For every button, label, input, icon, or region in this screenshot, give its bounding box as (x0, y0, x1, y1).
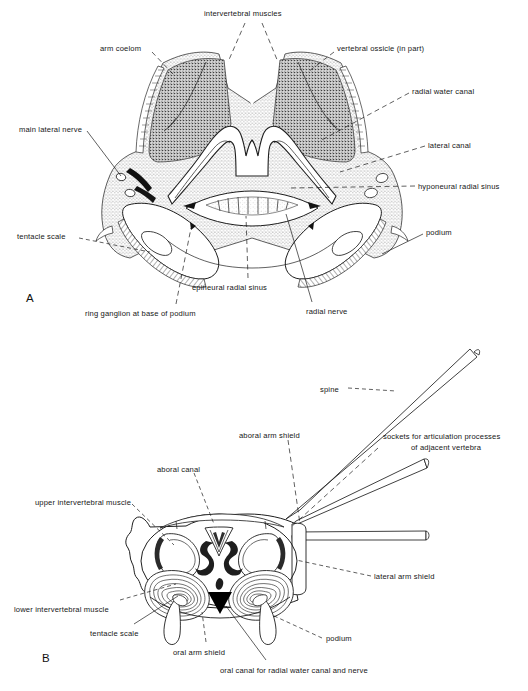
label-lower-intervertebral-muscle: lower intervertebral muscle (14, 605, 109, 615)
panel-a-artwork (79, 23, 425, 304)
anatomical-figure: intervertebral muscles arm coelom verteb… (0, 0, 528, 691)
panel-letter-b: B (42, 652, 50, 664)
label-oral-arm-shield: oral arm shield (173, 648, 225, 658)
label-aboral-canal: aboral canal (157, 465, 200, 475)
leader-aboral-arm-shield (288, 440, 300, 524)
label-intervertebral-muscles: intervertebral muscles (204, 9, 282, 19)
label-sockets-line1: sockets for articulation processes (383, 432, 500, 442)
label-lateral-arm-shield: lateral arm shield (374, 572, 435, 582)
label-podium-a: podium (426, 228, 452, 238)
leader-intervertebral-right (262, 23, 278, 62)
leader-lateral-arm-shield (296, 560, 371, 576)
label-radial-nerve: radial nerve (306, 307, 347, 317)
label-upper-intervertebral-muscle: upper intervertebral muscle (35, 498, 131, 508)
leader-podium-b (272, 615, 322, 638)
label-hyponeural-radial-sinus: hyponeural radial sinus (418, 182, 500, 192)
label-lateral-canal: lateral canal (428, 141, 471, 151)
label-vertebral-ossicle: vertebral ossicle (in part) (337, 44, 424, 54)
label-tentacle-scale-a: tentacle scale (17, 232, 66, 242)
label-oral-canal: oral canal for radial water canal and ne… (220, 666, 368, 676)
label-spine: spine (320, 385, 339, 395)
spine-lower (290, 531, 426, 540)
figure-artwork (0, 0, 528, 691)
label-tentacle-scale-b: tentacle scale (90, 629, 139, 639)
label-arm-coelom: arm coelom (100, 44, 141, 54)
label-main-lateral-nerve: main lateral nerve (19, 125, 82, 135)
label-aboral-arm-shield: aboral arm shield (239, 431, 300, 441)
label-ring-ganglion: ring ganglion at base of podium (85, 309, 196, 319)
leader-main-lateral-nerve (87, 131, 121, 176)
label-epineural-radial-sinus: epineural radial sinus (192, 283, 267, 293)
leader-intervertebral-left (228, 23, 245, 62)
spine-middle (288, 459, 427, 528)
panel-letter-a: A (26, 292, 34, 304)
label-podium-b: podium (326, 634, 352, 644)
panel-b-artwork (120, 349, 480, 660)
label-sockets-line2: of adjacent vertebra (411, 443, 481, 453)
leader-spine (348, 388, 396, 391)
spine-lower-tip (426, 531, 429, 540)
ossicle-right-block (292, 523, 306, 595)
label-radial-water-canal: radial water canal (412, 87, 474, 97)
